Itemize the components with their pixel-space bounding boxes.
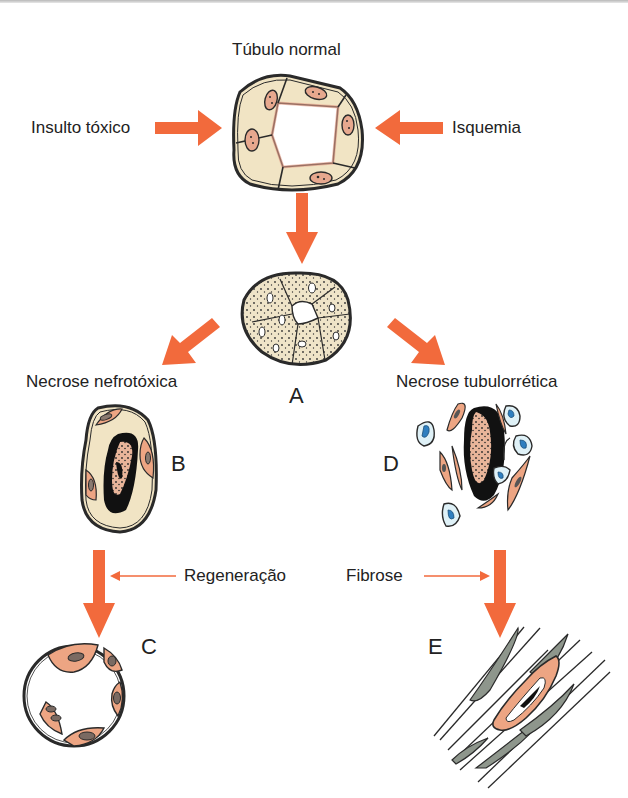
arrow-ischemia-icon [375,110,443,145]
tubule-c-icon [24,644,124,746]
tubule-b-icon [82,406,157,532]
label-fibrosis: Fibrose [346,566,403,586]
label-ischemia: Isquemia [452,118,521,138]
label-toxic-insult: Insulto tóxico [31,118,130,138]
tubule-d-icon [417,403,532,526]
arrow-a-to-d-icon [387,318,445,365]
letter-e: E [428,635,443,659]
arrow-fibrosis-icon [424,571,490,581]
label-tubulorrhexic-necrosis: Necrose tubulorrética [396,372,558,392]
letter-d: D [383,452,399,476]
arrow-d-to-e-icon [484,550,516,638]
normal-tubule-icon [234,75,363,190]
label-nephrotoxic-necrosis: Necrose nefrotóxica [26,372,177,392]
letter-a: A [289,384,304,408]
letter-c: C [141,635,157,659]
label-normal-tubule: Túbulo normal [232,40,341,60]
arrow-down-to-a-icon [286,193,318,264]
arrow-regeneration-icon [110,571,176,581]
arrow-toxic-insult-icon [155,110,222,146]
arrow-b-to-c-icon [83,550,115,638]
tubule-a-icon [242,273,350,365]
letter-b: B [171,452,186,476]
tubule-e-icon [434,627,610,788]
label-regeneration: Regeneração [184,566,286,586]
arrow-a-to-b-icon [162,318,220,365]
